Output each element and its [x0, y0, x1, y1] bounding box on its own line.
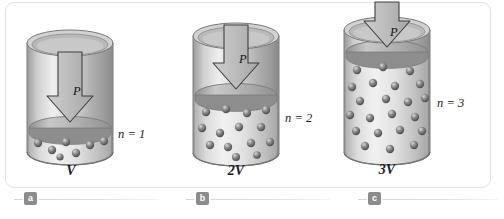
caption-a: a	[14, 189, 158, 213]
cylinder-a-illustration	[5, 0, 175, 186]
gas-cylinder-figure: P n = 1 V	[0, 0, 504, 219]
moles-label-b: n = 2	[285, 111, 312, 126]
caption-badge-c: c	[368, 192, 381, 205]
pressure-label-b: P	[239, 52, 247, 67]
moles-label-a: n = 1	[118, 127, 145, 142]
pressure-label-a: P	[73, 84, 81, 99]
pressure-label-c: P	[390, 25, 398, 40]
volume-label-a: V	[50, 163, 92, 179]
caption-c: c	[358, 189, 498, 213]
volume-label-b: 2V	[215, 163, 257, 179]
cylinder-c-illustration	[320, 0, 500, 186]
panel-a: P n = 1 V	[5, 0, 175, 186]
panel-b: P n = 2 2V	[165, 0, 335, 186]
volume-label-c: 3V	[366, 162, 408, 178]
panel-c: P n = 3 3V	[320, 0, 500, 186]
cylinder-b-illustration	[165, 0, 335, 186]
caption-b: b	[186, 189, 330, 213]
caption-badge-a: a	[24, 192, 37, 205]
caption-row: a b c	[0, 189, 504, 219]
moles-label-c: n = 3	[437, 96, 464, 111]
caption-badge-b: b	[196, 192, 209, 205]
